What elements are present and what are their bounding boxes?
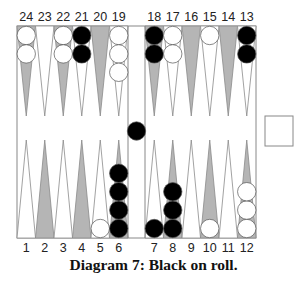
- white-checker[interactable]: [238, 201, 256, 219]
- point-label-12: 12: [240, 241, 254, 255]
- point-label-23: 23: [38, 10, 52, 24]
- point-label-2: 2: [41, 241, 48, 255]
- point-labels-bottom: 123456789101112: [23, 241, 254, 255]
- black-checker[interactable]: [145, 26, 163, 44]
- black-checker[interactable]: [238, 45, 256, 63]
- bar-black-checker[interactable]: [127, 122, 145, 140]
- point-label-5: 5: [97, 241, 104, 255]
- black-checker[interactable]: [164, 201, 182, 219]
- point-labels-top: 242322212019181716151413: [19, 10, 253, 24]
- white-checker[interactable]: [164, 45, 182, 63]
- black-checker[interactable]: [110, 219, 128, 237]
- point-label-18: 18: [147, 10, 161, 24]
- black-checker[interactable]: [110, 183, 128, 201]
- black-checker[interactable]: [73, 45, 91, 63]
- white-checker[interactable]: [238, 219, 256, 237]
- point-label-15: 15: [203, 10, 217, 24]
- white-checker[interactable]: [110, 63, 128, 81]
- black-checker[interactable]: [164, 183, 182, 201]
- point-label-9: 9: [188, 241, 195, 255]
- point-label-22: 22: [56, 10, 70, 24]
- white-checker[interactable]: [164, 26, 182, 44]
- point-label-13: 13: [240, 10, 254, 24]
- black-checker[interactable]: [238, 26, 256, 44]
- white-checker[interactable]: [91, 219, 109, 237]
- point-label-1: 1: [23, 241, 30, 255]
- white-checker[interactable]: [201, 26, 219, 44]
- diagram-caption: Diagram 7: Black on roll.: [0, 256, 307, 274]
- black-checker[interactable]: [145, 219, 163, 237]
- black-checker[interactable]: [73, 26, 91, 44]
- point-label-19: 19: [112, 10, 126, 24]
- point-label-14: 14: [221, 10, 235, 24]
- point-label-7: 7: [151, 241, 158, 255]
- black-checker[interactable]: [110, 164, 128, 182]
- point-label-11: 11: [222, 241, 235, 255]
- point-label-21: 21: [75, 10, 89, 24]
- point-label-8: 8: [169, 241, 176, 255]
- black-checker[interactable]: [110, 201, 128, 219]
- point-label-6: 6: [115, 241, 122, 255]
- point-label-4: 4: [78, 241, 85, 255]
- white-checker[interactable]: [54, 26, 72, 44]
- point-label-24: 24: [19, 10, 33, 24]
- point-label-20: 20: [93, 10, 107, 24]
- white-checker[interactable]: [201, 219, 219, 237]
- point-label-10: 10: [203, 241, 217, 255]
- white-checker[interactable]: [54, 45, 72, 63]
- white-checker[interactable]: [110, 45, 128, 63]
- white-checker[interactable]: [17, 45, 35, 63]
- point-label-16: 16: [184, 10, 198, 24]
- black-checker[interactable]: [164, 219, 182, 237]
- white-checker[interactable]: [17, 26, 35, 44]
- point-label-3: 3: [60, 241, 67, 255]
- doubling-cube[interactable]: [265, 116, 293, 146]
- backgammon-board: 242322212019181716151413 123456789101112: [0, 0, 307, 256]
- white-checker[interactable]: [110, 26, 128, 44]
- white-checker[interactable]: [238, 183, 256, 201]
- point-label-17: 17: [166, 10, 180, 24]
- black-checker[interactable]: [145, 45, 163, 63]
